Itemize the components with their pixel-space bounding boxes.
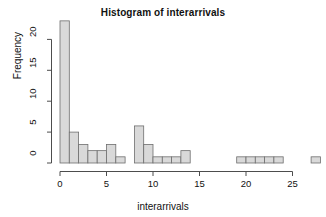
histogram-bar: [274, 157, 283, 163]
x-tick-label: 10: [141, 178, 165, 189]
y-tick-label: 15: [26, 58, 37, 82]
histogram-bar: [69, 132, 78, 163]
y-tick-label: 0: [26, 151, 37, 175]
histogram-bar: [162, 157, 171, 163]
histogram-bar: [144, 144, 153, 163]
histogram-bar: [255, 157, 264, 163]
histogram-bar: [97, 151, 106, 163]
x-tick-label: 25: [281, 178, 305, 189]
y-tick-label: 10: [26, 89, 37, 113]
histogram-bar: [79, 144, 88, 163]
y-tick-label: 5: [26, 120, 37, 144]
histogram-plot: Histogram of interarrivals Frequency int…: [0, 0, 326, 217]
histogram-bar: [311, 157, 320, 163]
histogram-bar: [237, 157, 246, 163]
histogram-bar: [153, 157, 162, 163]
histogram-bar: [88, 151, 97, 163]
x-tick-label: 15: [188, 178, 212, 189]
histogram-bar: [134, 126, 143, 163]
histogram-bar: [265, 157, 274, 163]
y-axis: [47, 39, 52, 163]
x-axis: [60, 172, 293, 177]
x-tick-label: 5: [95, 178, 119, 189]
x-tick-label: 0: [48, 178, 72, 189]
histogram-bar: [60, 21, 69, 163]
x-tick-label: 20: [234, 178, 258, 189]
histogram-bar: [246, 157, 255, 163]
histogram-bar: [172, 157, 181, 163]
histogram-bar: [116, 157, 125, 163]
bars-group: [60, 21, 320, 163]
histogram-bar: [107, 144, 116, 163]
histogram-bar: [181, 151, 190, 163]
y-tick-label: 20: [26, 27, 37, 51]
